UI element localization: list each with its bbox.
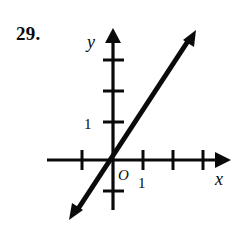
y-axis-arrowhead-icon (105, 28, 121, 43)
plotted-line (76, 38, 190, 212)
x-axis-arrowhead-icon (215, 152, 231, 168)
origin-label: O (118, 167, 129, 183)
y-tick-label-one: 1 (84, 116, 92, 132)
coordinate-graph: y x O 1 1 (0, 0, 251, 233)
figure-container: 29. y x O 1 1 (0, 0, 251, 233)
x-tick-label-one: 1 (138, 175, 146, 191)
y-axis-label: y (85, 32, 95, 52)
x-axis-label: x (214, 169, 223, 189)
